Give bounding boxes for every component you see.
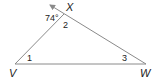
ray-wx-extended [50,5,146,64]
exterior-angle-label: 74° [45,13,59,23]
triangle-diagram: X V W 74° 2 1 3 [0,0,162,84]
vertex-label-x: X [65,1,74,13]
vertex-label-w: W [140,67,152,79]
vertex-label-v: V [9,67,18,79]
angle-1-label: 1 [27,53,32,63]
angle-3-label: 3 [122,53,127,63]
angle-2-label: 2 [63,20,68,30]
